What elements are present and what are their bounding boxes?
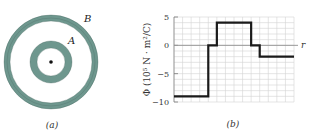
caption-a: (a) [46, 120, 59, 130]
y-tick-label: −10 [152, 98, 169, 107]
center-charge-dot [49, 60, 53, 64]
y-tick-label: −5 [157, 70, 169, 79]
r-axis-label: r [301, 40, 306, 50]
caption-b: (b) [227, 119, 240, 129]
y-tick-label: 5 [164, 13, 169, 22]
grid-lines [174, 17, 294, 102]
y-axis-label: Φ (10⁵ N · m²/C) [142, 23, 152, 97]
y-tick-label: 0 [164, 41, 169, 50]
panel-a: B A (a) [4, 13, 98, 130]
panel-b: 50−5−10 r Φ (10⁵ N · m²/C) (b) [142, 13, 306, 129]
figure: B A (a) 50−5−10 r Φ (10⁵ N · m²/C) (b) [0, 0, 311, 132]
label-a: A [67, 35, 75, 46]
label-b: B [83, 13, 91, 24]
